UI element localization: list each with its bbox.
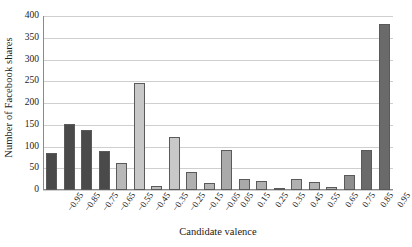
y-axis-title-text: Number of Facebook shares [3, 37, 14, 158]
bar [204, 183, 215, 190]
x-tick-label: 0.75 [361, 191, 377, 209]
x-tick-label: 0.35 [291, 191, 307, 209]
bar [116, 163, 127, 190]
x-tick-label: −0.75 [101, 191, 120, 213]
bar [64, 124, 75, 190]
bar [326, 187, 337, 190]
x-tick-label: 0.55 [326, 191, 342, 209]
bar [81, 130, 92, 190]
y-tick-label: 250 [25, 77, 39, 87]
x-tick-label: 0.05 [238, 191, 254, 209]
bar [239, 179, 250, 190]
x-tick-label: −0.35 [171, 191, 190, 213]
x-tick-label: −0.25 [188, 191, 207, 213]
y-tick-label: 100 [25, 142, 39, 152]
y-tick-label: 400 [25, 11, 39, 21]
bar [256, 181, 267, 190]
bar [344, 175, 355, 190]
y-tick-label: 300 [25, 55, 39, 65]
y-tick-label: 50 [30, 164, 40, 174]
bar [291, 179, 302, 190]
bar [99, 151, 110, 190]
bar [151, 186, 162, 190]
bar [379, 24, 390, 190]
y-tick-label: 200 [25, 98, 39, 108]
x-tick-label: 0.45 [308, 191, 324, 209]
x-axis-tick-labels: −0.95−0.85−0.75−0.65−0.55−0.45−0.35−0.25… [43, 191, 393, 225]
x-tick-label: −0.85 [83, 191, 102, 213]
x-tick-label: 0.65 [343, 191, 359, 209]
bar-series [43, 16, 393, 190]
x-tick-label: 0.85 [378, 191, 394, 209]
bar [46, 153, 57, 190]
bar [169, 137, 180, 190]
x-tick-label: 0.95 [396, 191, 412, 209]
bar [309, 182, 320, 190]
x-tick-label: −0.95 [66, 191, 85, 213]
x-axis-title-text: Candidate valence [179, 226, 256, 237]
y-tick-label: 0 [34, 185, 39, 195]
y-axis-title: Number of Facebook shares [0, 0, 16, 195]
x-tick-label: −0.55 [136, 191, 155, 213]
x-tick-label: −0.65 [118, 191, 137, 213]
bar [274, 188, 285, 190]
x-axis-title: Candidate valence [43, 226, 393, 237]
x-tick-label: −0.15 [206, 191, 225, 213]
y-axis-tick-labels: 050100150200250300350400 [16, 0, 42, 195]
y-tick-label: 150 [25, 120, 39, 130]
y-tick-label: 350 [25, 33, 39, 43]
bar [186, 172, 197, 190]
bar [361, 150, 372, 190]
x-tick-label: 0.25 [273, 191, 289, 209]
plot-area [43, 16, 393, 190]
x-tick-label: −0.45 [153, 191, 172, 213]
bar [221, 150, 232, 190]
x-tick-label: 0.15 [256, 191, 272, 209]
bar [134, 83, 145, 190]
